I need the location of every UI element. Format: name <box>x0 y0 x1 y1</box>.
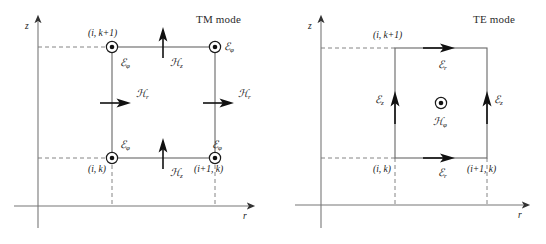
te-mode-graphics <box>273 0 546 244</box>
te-r-axis-label: r <box>518 211 522 221</box>
subscript-r: r <box>444 64 447 72</box>
script-h-glyph: ℋ <box>238 88 248 99</box>
tm-node-label-top-left: (i, k+1) <box>88 29 117 39</box>
subscript-phi: φ <box>230 46 234 54</box>
node-marker-top-right <box>209 41 220 52</box>
tm-z-axis-label: z <box>25 22 29 32</box>
panel-tm-mode: TM mode z r (i, k+1) (i, k) (i+1, k) ℰφ … <box>0 0 273 244</box>
tm-h-r-left-label: ℋr <box>136 89 149 101</box>
subscript-phi: φ <box>126 144 130 152</box>
e-r-top-arrow <box>423 43 455 52</box>
tm-h-r-right-label: ℋr <box>238 89 251 101</box>
tm-node-label-bottom-left: (i, k) <box>88 165 106 175</box>
tm-e-phi-top-left-label: ℰφ <box>120 58 130 70</box>
node-marker-top-left <box>106 41 117 52</box>
tm-e-phi-top-right-label: ℰφ <box>224 42 234 54</box>
subscript-z: z <box>180 172 183 180</box>
figure-root: TM mode z r (i, k+1) (i, k) (i+1, k) ℰφ … <box>0 0 546 244</box>
e-r-bottom-arrow <box>423 153 455 162</box>
script-e-glyph: ℰ <box>120 57 126 68</box>
script-h-glyph: ℋ <box>170 57 180 68</box>
script-h-glyph: ℋ <box>433 116 443 127</box>
node-marker-bottom-right <box>209 152 220 163</box>
subscript-r: r <box>444 172 447 180</box>
te-e-z-right-label: ℰz <box>494 95 503 107</box>
panel-te-mode: TE mode z r (i, k+1) (i, k) (i+1, k) ℰr … <box>273 0 546 244</box>
h-phi-center-marker <box>435 97 446 108</box>
subscript-r: r <box>248 93 251 101</box>
e-z-right-arrow <box>483 91 492 124</box>
h-r-right-arrow <box>203 99 234 108</box>
subscript-r: r <box>146 93 149 101</box>
script-h-glyph: ℋ <box>170 167 180 178</box>
te-e-r-bottom-label: ℰr <box>438 168 447 180</box>
script-e-glyph: ℰ <box>438 167 444 178</box>
script-h-glyph: ℋ <box>136 88 146 99</box>
tm-mode-title: TM mode <box>196 14 241 25</box>
subscript-z: z <box>180 62 183 70</box>
h-r-left-arrow <box>100 99 131 108</box>
te-mode-title: TE mode <box>473 14 515 25</box>
tm-r-axis-label: r <box>243 212 247 222</box>
te-e-z-left-label: ℰz <box>375 95 384 107</box>
te-h-phi-center-label: ℋφ <box>433 117 447 129</box>
script-e-glyph: ℰ <box>438 59 444 70</box>
tm-mode-graphics <box>0 0 273 244</box>
script-e-glyph: ℰ <box>494 94 500 105</box>
te-node-label-top-left: (i, k+1) <box>373 31 402 41</box>
e-z-left-arrow <box>391 91 400 124</box>
subscript-phi: φ <box>443 121 447 129</box>
tm-e-phi-bottom-left-label: ℰφ <box>120 140 130 152</box>
h-z-bottom-arrow <box>159 138 168 169</box>
script-e-glyph: ℰ <box>224 41 230 52</box>
tm-node-label-bottom-right: (i+1, k) <box>194 165 223 175</box>
te-z-axis-label: z <box>308 22 312 32</box>
h-z-top-arrow <box>159 27 168 58</box>
te-node-label-bottom-left: (i, k) <box>373 165 391 175</box>
te-e-r-top-label: ℰr <box>438 60 447 72</box>
script-e-glyph: ℰ <box>375 94 381 105</box>
script-e-glyph: ℰ <box>212 139 218 150</box>
tm-h-z-bottom-label: ℋz <box>170 168 183 180</box>
subscript-phi: φ <box>218 144 222 152</box>
te-node-label-bottom-right: (i+1, k) <box>467 165 496 175</box>
node-marker-bottom-left <box>106 152 117 163</box>
subscript-phi: φ <box>126 62 130 70</box>
script-e-glyph: ℰ <box>120 139 126 150</box>
subscript-z: z <box>500 99 503 107</box>
tm-e-phi-bottom-right-label: ℰφ <box>212 140 222 152</box>
subscript-z: z <box>381 99 384 107</box>
tm-h-z-top-label: ℋz <box>170 58 183 70</box>
